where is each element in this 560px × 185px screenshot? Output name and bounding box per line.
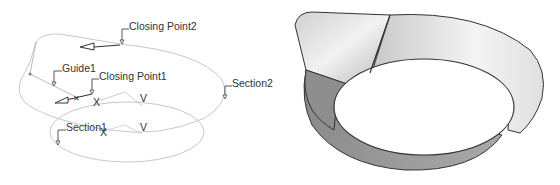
closing-point2-direction-arrow bbox=[80, 43, 94, 50]
axis-y-label-2: V bbox=[140, 121, 147, 133]
inner-opening bbox=[334, 59, 514, 155]
closing-point1-marker: ✕ bbox=[73, 94, 80, 103]
section1-leader bbox=[58, 130, 66, 141]
closing-point1-leader bbox=[92, 79, 99, 90]
section2-label: Section2 bbox=[232, 77, 273, 89]
guide1-leader bbox=[54, 71, 62, 82]
closing-point1-label: Closing Point1 bbox=[99, 70, 167, 82]
curve-definition-diagram: ✕ X V X V Closing Point2 Guide1 bbox=[0, 0, 280, 185]
closing-point2-label: Closing Point2 bbox=[129, 20, 197, 32]
guide1-label: Guide1 bbox=[62, 62, 96, 74]
swept-surface-render bbox=[280, 0, 560, 185]
axis-x-label-1: X bbox=[93, 96, 100, 108]
wireframe-sketch: ✕ X V X V Closing Point2 Guide1 bbox=[0, 0, 280, 185]
guide-start-point bbox=[28, 72, 31, 75]
closing-point2-leader bbox=[122, 29, 129, 40]
section2-leader bbox=[225, 86, 232, 95]
section1-label: Section1 bbox=[66, 121, 107, 133]
closing-point1-direction-arrow bbox=[55, 97, 68, 103]
shaded-surface bbox=[280, 0, 560, 185]
axis-y-label-1: V bbox=[140, 92, 147, 104]
